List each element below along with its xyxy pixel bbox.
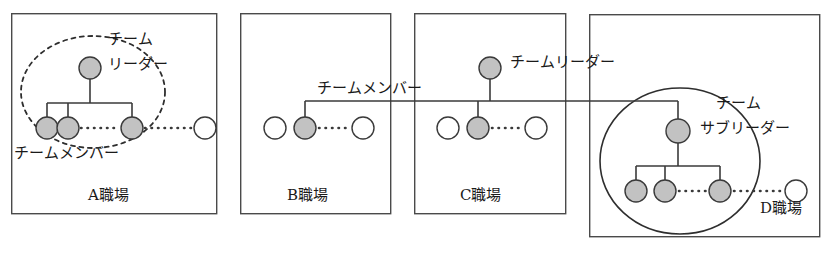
annotation-team-member-B: チームメンバー [317, 81, 422, 96]
node-team-member-A-1[interactable] [36, 117, 58, 139]
workplace-C [415, 14, 566, 214]
annotation-team-leader-A-line2: リーダー [108, 57, 168, 72]
workplace-B-box [241, 14, 391, 214]
annotation-team-leader-C: チームリーダー [510, 55, 615, 70]
node-team-member-A-3[interactable] [121, 117, 143, 139]
annotation-team-leader-A-line1: チーム [108, 32, 153, 47]
node-team-leader-A[interactable] [79, 57, 101, 79]
workplace-label-B: B職場 [287, 188, 328, 203]
node-non-member-A[interactable] [194, 117, 216, 139]
workplace-B [241, 14, 391, 214]
node-non-member-C-1[interactable] [437, 117, 459, 139]
node-non-member-B-1[interactable] [264, 117, 286, 139]
node-team-member-A-2[interactable] [57, 117, 79, 139]
workplace-label-D: D職場 [760, 201, 802, 216]
node-non-member-C-2[interactable] [525, 117, 547, 139]
annotation-team-subleader-D-line1: チーム [716, 96, 761, 111]
annotation-team-member-A: チームメンバー [14, 146, 119, 161]
diagram-root: .box{fill:#ffffff;stroke:#4a4a4a;stroke-… [0, 0, 827, 256]
annotation-team-subleader-D-line2: サブリーダー [700, 121, 790, 136]
workplace-label-A: A職場 [88, 188, 129, 203]
node-team-member-D-2[interactable] [654, 180, 676, 202]
node-team-member-B[interactable] [294, 117, 316, 139]
workplace-label-C: C職場 [460, 188, 501, 203]
node-non-member-B-2[interactable] [352, 117, 374, 139]
node-team-member-C[interactable] [467, 117, 489, 139]
workplace-C-box [415, 14, 566, 214]
node-team-member-D-3[interactable] [709, 180, 731, 202]
node-team-leader-C[interactable] [479, 57, 501, 79]
node-team-subleader-D[interactable] [666, 119, 690, 143]
node-team-member-D-1[interactable] [625, 180, 647, 202]
